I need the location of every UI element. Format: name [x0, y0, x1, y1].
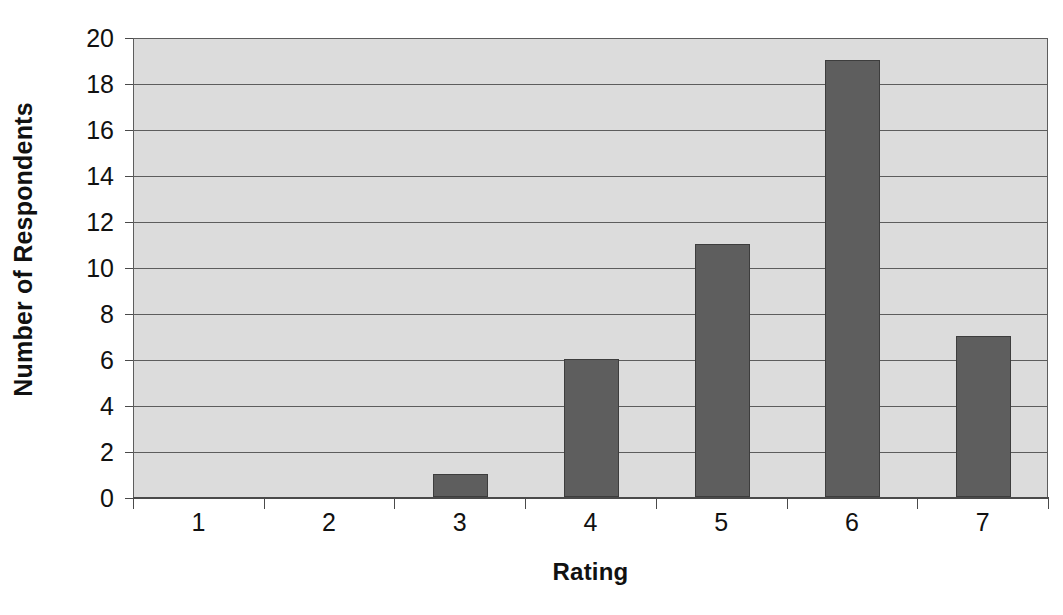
bar-chart: Number of Respondents 02468101214161820 … — [0, 0, 1063, 615]
y-axis-title: Number of Respondents — [0, 0, 46, 498]
plot-area — [133, 38, 1048, 498]
bar — [695, 244, 750, 497]
y-axis-tick-label: 4 — [100, 392, 114, 421]
y-axis-tick-labels: 02468101214161820 — [46, 38, 126, 498]
bar — [956, 336, 1011, 497]
x-axis-tick-label: 2 — [322, 508, 336, 537]
x-axis-tick-label: 7 — [976, 508, 990, 537]
y-axis-tick-label: 8 — [100, 300, 114, 329]
x-axis-tick-label: 5 — [714, 508, 728, 537]
bar — [433, 474, 488, 497]
x-axis-tick — [1048, 499, 1049, 509]
y-axis-tick-label: 10 — [86, 254, 114, 283]
y-axis-tick-label: 6 — [100, 346, 114, 375]
y-axis-tick-label: 18 — [86, 70, 114, 99]
y-axis-tick-label: 2 — [100, 438, 114, 467]
x-axis-tick-label: 4 — [584, 508, 598, 537]
bar — [825, 60, 880, 497]
x-axis-tick-label: 3 — [453, 508, 467, 537]
x-axis-title-text: Rating — [553, 558, 629, 585]
x-axis-tick-labels: 1234567 — [133, 508, 1048, 550]
bar — [564, 359, 619, 497]
y-axis-tick-label: 20 — [86, 24, 114, 53]
y-axis-title-text: Number of Respondents — [9, 102, 38, 397]
y-axis-tick-label: 14 — [86, 162, 114, 191]
y-axis-tick-label: 16 — [86, 116, 114, 145]
x-axis-tick-label: 1 — [191, 508, 205, 537]
x-axis-tick-label: 6 — [845, 508, 859, 537]
x-axis-title: Rating — [133, 558, 1048, 586]
x-axis-spine — [133, 497, 1049, 499]
y-axis-tick-label: 0 — [100, 484, 114, 513]
bars-layer — [134, 39, 1047, 497]
y-axis-tick-label: 12 — [86, 208, 114, 237]
